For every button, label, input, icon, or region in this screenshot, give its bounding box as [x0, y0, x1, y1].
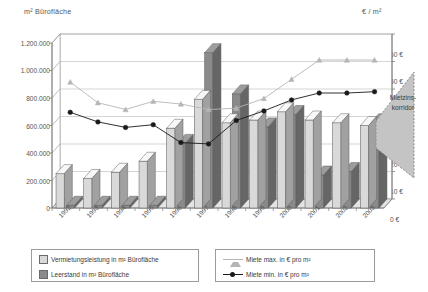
legend-label-vermietungsleistung: Vermietungsleistung in m² Bürofläche [51, 256, 159, 263]
legend-item-vermietungsleistung: Vermietungsleistung in m² Bürofläche [32, 252, 198, 267]
office-space-rent-chart: m² Bürofläche € / m² 1.200.000 1.000.000… [0, 0, 428, 292]
legend-item-miete-max: Miete max. in € pro m² [216, 252, 374, 267]
circle-marker-icon [223, 271, 243, 278]
legend-item-leerstand: Leerstand in m² Bürofläche [32, 267, 198, 282]
mietzinskorridor-line2: korridor [380, 103, 426, 113]
legend-bars: Vermietungsleistung in m² Bürofläche Lee… [31, 249, 199, 282]
triangle-marker-icon [223, 256, 243, 263]
legend-label-leerstand: Leerstand in m² Bürofläche [51, 271, 129, 278]
legend-item-miete-min: Miete min. in € pro m² [216, 267, 374, 282]
legend-label-miete-min: Miete min. in € pro m² [246, 271, 309, 278]
light-square-icon [39, 255, 48, 264]
dark-square-icon [39, 270, 48, 279]
legend-lines: Miete max. in € pro m² Miete min. in € p… [215, 249, 375, 282]
mietzinskorridor-label: Mietzins- korridor [380, 93, 426, 113]
mietzinskorridor-line1: Mietzins- [380, 93, 426, 103]
legend-label-miete-max: Miete max. in € pro m² [246, 256, 311, 263]
